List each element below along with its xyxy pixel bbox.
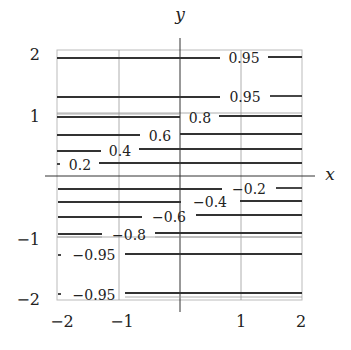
contour-label: 0.95	[228, 50, 259, 66]
contour-label: −0.2	[232, 181, 266, 197]
contour-label: −0.95	[73, 247, 116, 263]
y-tick-label: 2	[30, 45, 40, 64]
contour-label: −0.6	[152, 209, 186, 225]
contour-label: 0.95	[229, 89, 260, 105]
contour-label: −0.4	[193, 194, 227, 210]
x-tick-label: 1	[236, 312, 246, 331]
contour-label: −0.95	[73, 287, 116, 303]
x-tick-label: 2	[296, 312, 306, 331]
contour-label: −0.8	[112, 227, 146, 243]
x-tick-label: −1	[110, 312, 134, 331]
x-tick-label: −2	[50, 312, 74, 331]
y-tick-label: −2	[16, 290, 40, 309]
contour-label: 0.8	[189, 110, 211, 126]
contour-label: 0.2	[69, 157, 91, 173]
y-tick-label: −1	[16, 230, 40, 249]
contour-label: 0.6	[149, 128, 171, 144]
y-tick-label: 1	[30, 107, 40, 126]
contour-label: 0.4	[109, 143, 131, 159]
x-axis-label: x	[325, 164, 335, 184]
contour-plot: 0.95 0.95 0.8 0.6 0.4 0.2 −0.2 −0.4 −0.6…	[0, 0, 351, 350]
y-axis-label: y	[174, 4, 185, 24]
